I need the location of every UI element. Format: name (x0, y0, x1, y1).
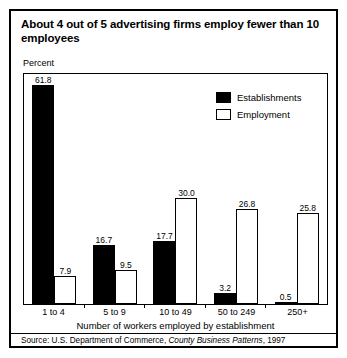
bar-group: 17.730.0 (145, 74, 206, 304)
bar-slot: 16.7 (93, 74, 115, 304)
bar-slot: 9.5 (115, 74, 137, 304)
bar-employment[interactable]: 30.0 (175, 198, 197, 304)
bar-groups: 61.87.916.79.517.730.03.226.80.525.8 (24, 74, 327, 304)
bar-employment[interactable]: 26.8 (236, 209, 258, 304)
bar-value-label: 0.5 (280, 292, 292, 302)
bar-value-label: 7.9 (59, 266, 71, 276)
plot-area: Establishments Employment 61.87.916.79.5… (24, 74, 327, 304)
bar-establishments[interactable]: 17.7 (153, 241, 175, 304)
page-title: About 4 out of 5 advertising firms emplo… (21, 18, 326, 45)
x-axis-tick-labels: 1 to 45 to 910 to 4950 to 249250+ (23, 307, 328, 317)
source-prefix: Source: U.S. Department of Commerce, (21, 336, 168, 345)
bar-value-label: 16.7 (96, 235, 113, 245)
bar-value-label: 17.7 (156, 231, 173, 241)
bar-group: 61.87.9 (24, 74, 85, 304)
bar-slot: 30.0 (175, 74, 197, 304)
bar-establishments[interactable]: 3.2 (214, 293, 236, 304)
plot-frame: Establishments Employment 61.87.916.79.5… (23, 73, 328, 305)
bar-establishments[interactable]: 61.8 (32, 85, 54, 304)
bar-value-label: 30.0 (178, 188, 195, 198)
bar-establishments[interactable]: 0.5 (275, 302, 297, 304)
bar-group: 3.226.8 (206, 74, 267, 304)
bar-slot: 25.8 (297, 74, 319, 304)
bar-group: 16.79.5 (85, 74, 146, 304)
x-axis-tick-label: 50 to 249 (206, 307, 267, 317)
bar-slot: 3.2 (214, 74, 236, 304)
bar-value-label: 3.2 (219, 283, 231, 293)
bar-value-label: 26.8 (239, 199, 256, 209)
bar-employment[interactable]: 7.9 (54, 276, 76, 304)
x-axis-tick-label: 250+ (267, 307, 328, 317)
bar-establishments[interactable]: 16.7 (93, 245, 115, 304)
bar-slot: 17.7 (153, 74, 175, 304)
bar-value-label: 9.5 (120, 260, 132, 270)
bar-slot: 26.8 (236, 74, 258, 304)
title-block: About 4 out of 5 advertising firms emplo… (11, 11, 336, 50)
bar-slot: 7.9 (54, 74, 76, 304)
x-axis-tick-label: 10 to 49 (145, 307, 206, 317)
source-divider (11, 333, 336, 334)
source-suffix: , 1997 (263, 336, 286, 345)
chart-figure: About 4 out of 5 advertising firms emplo… (9, 9, 338, 348)
y-axis-unit-label: Percent (23, 58, 54, 68)
source-note: Source: U.S. Department of Commerce, Cou… (21, 336, 285, 345)
x-axis-tick-label: 1 to 4 (23, 307, 84, 317)
x-axis-title: Number of workers employed by establishm… (23, 320, 328, 331)
bar-slot: 0.5 (275, 74, 297, 304)
bar-employment[interactable]: 9.5 (115, 270, 137, 304)
bar-value-label: 61.8 (35, 75, 52, 85)
bar-group: 0.525.8 (266, 74, 327, 304)
x-axis-tick-label: 5 to 9 (84, 307, 145, 317)
source-italic: County Business Patterns (168, 336, 262, 345)
bar-value-label: 25.8 (299, 203, 316, 213)
bar-slot: 61.8 (32, 74, 54, 304)
bar-employment[interactable]: 25.8 (297, 213, 319, 304)
